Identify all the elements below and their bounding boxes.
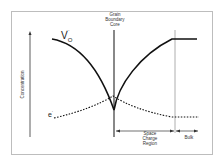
subscript: O: [68, 37, 73, 43]
bulk-label: Bulk: [179, 135, 199, 140]
arrow-left-icon: [116, 130, 120, 133]
space-charge-label: Space Charge Region: [135, 131, 165, 146]
electron-label: e': [48, 110, 53, 118]
superscript: ··: [66, 27, 69, 33]
arrow-right-icon: [170, 130, 174, 133]
label-line: Region: [135, 141, 165, 146]
arrow-right-icon: [194, 130, 198, 133]
label-line: Core: [100, 22, 130, 27]
arrow-left-icon: [176, 130, 180, 133]
y-axis-arrow-icon: [29, 31, 32, 35]
superscript: ': [52, 110, 53, 115]
electron-curve: [54, 96, 199, 118]
y-axis-label: Concentration: [20, 65, 25, 105]
vacancy-label: VO··: [61, 30, 76, 43]
grain-boundary-label: Grain Boundary Core: [100, 12, 130, 27]
